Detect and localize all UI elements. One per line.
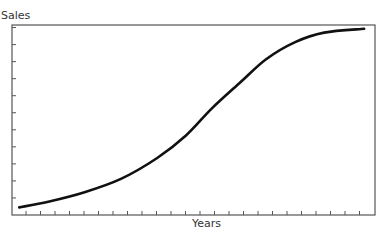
sales-curve <box>19 29 364 208</box>
x-axis-ticks <box>26 211 360 215</box>
plot-frame <box>12 25 375 215</box>
chart-canvas <box>0 0 381 232</box>
